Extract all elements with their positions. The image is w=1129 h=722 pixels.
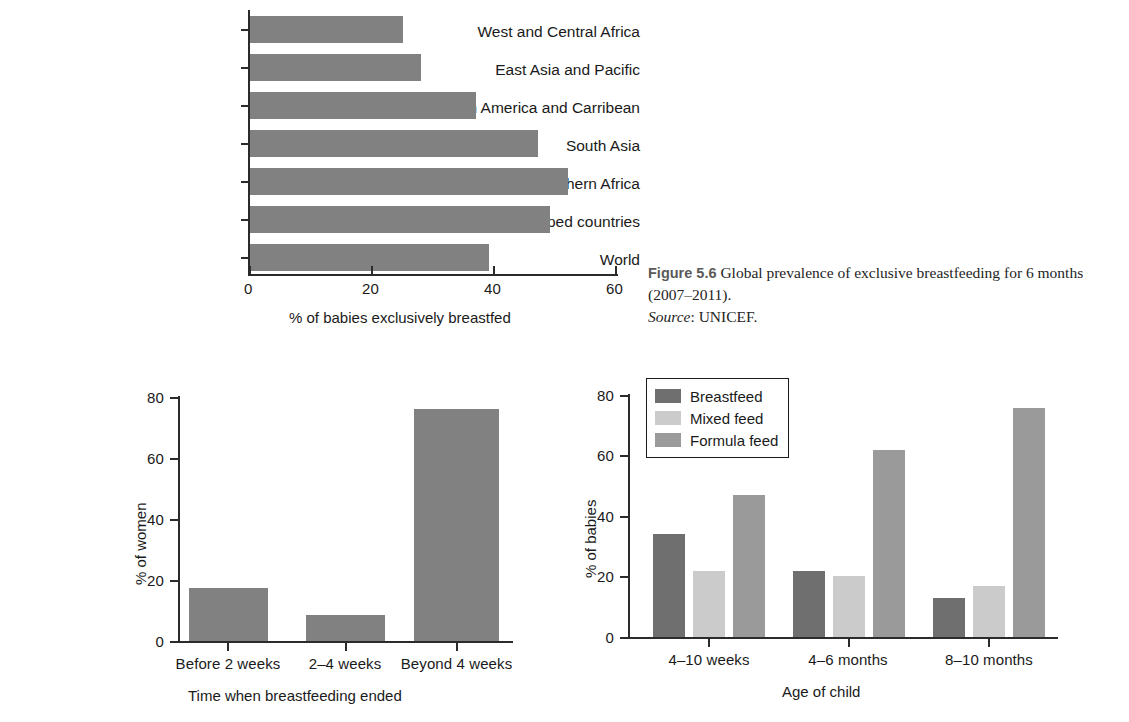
y-tick-label: 80 <box>588 387 614 404</box>
bar-latin-america-carribean <box>250 92 476 119</box>
y-axis-tick <box>620 395 629 397</box>
x-axis-tick <box>848 639 850 647</box>
x-axis-tick <box>227 643 229 651</box>
category-label: East Asia and Pacific <box>402 61 640 79</box>
x-tick-label: 4–10 weeks <box>648 651 770 668</box>
bar-world <box>250 244 489 271</box>
y-tick-label: 60 <box>588 447 614 464</box>
y-tick-label: 0 <box>138 633 164 650</box>
x-tick-label: 0 <box>244 280 252 297</box>
x-axis-tick <box>615 266 617 275</box>
bar-formula-feed-4-10-weeks <box>733 495 765 637</box>
bar-beyond-4-weeks <box>414 409 499 643</box>
figure-number: Figure 5.6 <box>648 265 717 281</box>
x-tick-label: 4–6 months <box>786 651 910 668</box>
x-axis-line <box>248 274 618 276</box>
x-axis-title: Age of child <box>782 683 860 700</box>
x-tick-label: 60 <box>606 280 623 297</box>
chart-legend: Breastfeed Mixed feed Formula feed <box>646 378 789 458</box>
source-value: : UNICEF. <box>690 308 757 325</box>
y-axis-tick <box>241 105 249 107</box>
bar-least-developed-countries <box>250 206 550 233</box>
bar-before-2-weeks <box>189 588 268 643</box>
bar-south-asia <box>250 130 538 157</box>
bar-2-4-weeks <box>306 615 385 643</box>
bar-mixed-feed-4-6-months <box>833 576 865 637</box>
y-axis-tick <box>620 516 629 518</box>
y-axis-tick <box>241 29 249 31</box>
bar-east-southern-africa <box>250 168 568 195</box>
y-axis-title: % of women <box>132 502 149 585</box>
x-axis-tick <box>249 266 251 275</box>
x-axis-tick <box>988 639 990 647</box>
y-axis-tick <box>170 397 179 399</box>
figure-5-6-chart: West and Central Africa East Asia and Pa… <box>0 0 640 340</box>
y-axis-tick <box>170 458 179 460</box>
bar-mixed-feed-4-10-weeks <box>693 571 725 637</box>
x-tick-label: 40 <box>484 280 501 297</box>
y-axis-tick <box>241 219 249 221</box>
figure-caption: Figure 5.6 Global prevalence of exclusiv… <box>648 262 1118 328</box>
x-tick-label: 20 <box>362 280 379 297</box>
x-tick-label: 2–4 weeks <box>290 655 400 672</box>
y-axis-tick <box>620 455 629 457</box>
y-axis-tick <box>241 143 249 145</box>
y-axis-tick <box>241 181 249 183</box>
legend-item-mixed-feed: Mixed feed <box>655 407 778 429</box>
x-axis-tick <box>493 266 495 275</box>
legend-label-breastfeed: Breastfeed <box>690 388 763 405</box>
legend-item-breastfeed: Breastfeed <box>655 385 778 407</box>
y-tick-label: 60 <box>138 450 164 467</box>
legend-item-formula-feed: Formula feed <box>655 429 778 451</box>
bar-breastfeed-4-10-weeks <box>653 534 685 637</box>
bar-formula-feed-8-10-months <box>1013 408 1045 637</box>
x-axis-title: Time when breastfeeding ended <box>188 687 402 704</box>
bar-breastfeed-8-10-months <box>933 598 965 637</box>
x-tick-label: 8–10 months <box>926 651 1052 668</box>
x-axis-tick <box>456 643 458 651</box>
legend-swatch-formula-feed <box>655 433 681 447</box>
legend-label-formula-feed: Formula feed <box>690 432 778 449</box>
x-tick-label: Before 2 weeks <box>160 655 296 672</box>
time-breastfeeding-ended-chart: 80 60 40 20 0 % of women Before 2 weeks … <box>120 370 540 722</box>
bar-east-asia-pacific <box>250 54 421 81</box>
y-axis-tick <box>170 580 179 582</box>
x-axis-line <box>628 637 1058 639</box>
y-tick-label: 0 <box>588 629 614 646</box>
x-axis-title: % of babies exclusively breastfed <box>289 309 511 326</box>
x-axis-tick <box>371 266 373 275</box>
y-axis-tick <box>241 67 249 69</box>
x-axis-tick <box>708 639 710 647</box>
legend-swatch-mixed-feed <box>655 411 681 425</box>
y-axis-tick <box>170 519 179 521</box>
legend-label-mixed-feed: Mixed feed <box>690 410 763 427</box>
bar-west-central-africa <box>250 16 403 43</box>
bar-formula-feed-4-6-months <box>873 450 905 637</box>
bar-mixed-feed-8-10-months <box>973 586 1005 637</box>
y-axis-tick <box>241 257 249 259</box>
x-axis-tick <box>345 643 347 651</box>
y-axis-tick <box>620 576 629 578</box>
category-label: West and Central Africa <box>402 23 640 41</box>
y-axis-title: % of babies <box>582 500 599 578</box>
source-label: Source <box>648 308 690 325</box>
legend-swatch-breastfeed <box>655 389 681 403</box>
y-tick-label: 80 <box>138 389 164 406</box>
bar-breastfeed-4-6-months <box>793 571 825 637</box>
x-tick-label: Beyond 4 weeks <box>390 655 523 672</box>
feeding-by-age-chart: 80 60 40 20 0 % of babies 4–10 weeks 4–6… <box>560 370 1030 722</box>
